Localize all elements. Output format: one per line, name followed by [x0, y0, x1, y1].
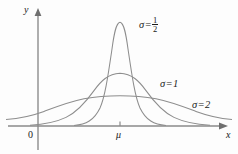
x-axis-label: x: [226, 130, 230, 140]
series-label-sigma-half: σ=12: [139, 16, 158, 35]
series-label-sigma-one: σ=1: [160, 79, 178, 90]
series-label-sigma-two: σ=2: [192, 100, 210, 111]
equals-symbol-two: =: [197, 99, 205, 110]
sigma-value-one: 1: [173, 78, 178, 89]
fraction-numerator: 1: [152, 16, 158, 25]
curve-sigma-half: [74, 22, 166, 125]
curve-sigma-1: [30, 73, 210, 125]
origin-label: 0: [28, 130, 33, 140]
normal-distribution-figure: y x 0 μ σ=12 σ=1 σ=2: [0, 0, 238, 154]
x-tick-label-mu: μ: [116, 130, 121, 140]
y-axis-label: y: [24, 5, 28, 15]
sigma-value-two: 2: [205, 99, 210, 110]
fraction-one-half: 12: [152, 16, 158, 35]
fraction-denominator: 2: [152, 24, 158, 34]
y-axis: [35, 8, 42, 150]
equals-symbol-half: =: [144, 19, 152, 30]
equals-symbol-one: =: [165, 78, 173, 89]
